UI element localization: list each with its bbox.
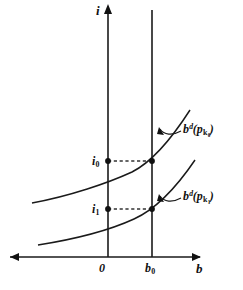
bond-quantity-axis-label: b bbox=[196, 262, 203, 275]
upper-arg-sub-index: 0 bbox=[208, 132, 211, 138]
lower-arg-subscript: k1 bbox=[203, 195, 210, 204]
interest-rate-axis-label: i bbox=[96, 4, 100, 17]
i1-axis-dot bbox=[105, 206, 111, 212]
leader-lower-path bbox=[160, 196, 181, 201]
i1-intersection-dot bbox=[149, 206, 155, 212]
i1-value-label: i1 bbox=[92, 203, 99, 215]
b-axis-right-arrow-icon bbox=[192, 253, 201, 261]
bond-demand-curve-upper-path bbox=[32, 110, 190, 203]
figure-canvas bbox=[0, 0, 243, 290]
i-axis-up-arrow-icon bbox=[104, 4, 112, 14]
origin-label: 0 bbox=[99, 262, 105, 274]
i0-axis-dot bbox=[105, 158, 111, 164]
b-axis-left-arrow-icon bbox=[10, 253, 19, 261]
lower-paren-close: ) bbox=[210, 189, 214, 203]
b0-subscript: 0 bbox=[151, 267, 155, 276]
upper-superscript: d bbox=[189, 122, 193, 131]
i1-subscript: 1 bbox=[96, 208, 100, 217]
i1-base: i bbox=[92, 202, 95, 216]
leader-upper-arrow-icon bbox=[157, 127, 164, 135]
upper-paren-close: ) bbox=[210, 122, 214, 136]
i0-base: i bbox=[92, 154, 95, 168]
i0-intersection-dot bbox=[149, 158, 155, 164]
lower-superscript: d bbox=[189, 189, 193, 198]
lower-arg-sub-index: 1 bbox=[208, 199, 211, 205]
b0-tick-label: b0 bbox=[145, 262, 155, 274]
bond-demand-curve-upper-label: bd(pk0) bbox=[183, 123, 214, 135]
i0-subscript: 0 bbox=[96, 160, 100, 169]
lower-arg-sub-base: k bbox=[203, 195, 207, 204]
i0-value-label: i0 bbox=[92, 155, 99, 167]
bond-demand-curve-lower-label: bd(pk1) bbox=[183, 190, 214, 202]
upper-arg-sub-base: k bbox=[203, 128, 207, 137]
upper-arg-subscript: k0 bbox=[203, 128, 210, 137]
lower-arg-base: p bbox=[197, 189, 203, 203]
bond-demand-curve-lower-path bbox=[38, 160, 195, 245]
upper-arg-base: p bbox=[197, 122, 203, 136]
leader-upper-path bbox=[160, 129, 181, 134]
bond-demand-figure: i b 0 b0 i0 i1 bd(pk0) bd(pk1) bbox=[0, 0, 243, 290]
